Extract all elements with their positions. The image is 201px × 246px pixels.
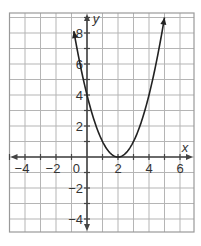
x-axis-label: x	[181, 140, 189, 155]
y-tick-label: 4	[76, 88, 83, 103]
grid	[10, 13, 195, 232]
y-tick-label: −4	[68, 212, 83, 227]
y-tick-label: −2	[68, 181, 83, 196]
x-tick-label: −2	[46, 161, 61, 176]
x-tick-label: 6	[176, 161, 183, 176]
y-axis-arrow-down-icon	[84, 224, 90, 231]
y-tick-label: 2	[76, 119, 83, 134]
plot-border	[10, 13, 195, 232]
parabola-chart: −4−2246−4−224680xy	[0, 0, 201, 246]
x-axis-arrow-left-icon	[11, 154, 18, 160]
y-tick-label: 8	[76, 26, 83, 41]
curve-arrow-icon	[160, 18, 166, 25]
x-tick-label: 2	[114, 161, 121, 176]
x-tick-label: −4	[15, 161, 30, 176]
origin-label: 0	[73, 161, 80, 176]
x-tick-label: 4	[145, 161, 152, 176]
axes	[10, 14, 194, 231]
